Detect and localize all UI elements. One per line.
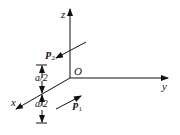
dimension-lower-label: a/2 xyxy=(35,99,48,109)
coordinate-diagram: z y x O p2 p1 a/2 a/2 xyxy=(0,0,180,135)
p2-subscript: 2 xyxy=(52,54,56,62)
origin-label: O xyxy=(74,66,82,77)
z-axis-label: z xyxy=(61,9,65,20)
y-axis-label: y xyxy=(162,81,167,92)
x-axis-label: x xyxy=(11,97,16,108)
p2-arrow xyxy=(56,42,86,58)
p2-label: p2 xyxy=(46,48,55,62)
diagram-lines xyxy=(0,0,180,135)
dimension-upper-label: a/2 xyxy=(35,73,48,83)
p1-label: p1 xyxy=(73,99,82,113)
p1-subscript: 1 xyxy=(79,105,83,113)
